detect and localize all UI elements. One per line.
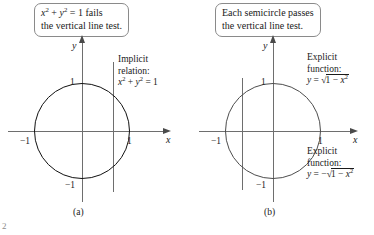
annotation-explicit-lower: Explicit function: y = −√1 − x2 — [307, 146, 354, 181]
y-axis-label-a: y — [72, 41, 76, 51]
tick-label-a-x-left: −1 — [20, 136, 30, 146]
annotation-explicit-upper: Explicit function: y = √1 − x2 — [307, 52, 349, 87]
y-axis-label-b: y — [263, 41, 267, 51]
x-axis-arrow-b — [350, 128, 358, 134]
page-corner-mark: 2 — [2, 221, 7, 231]
caption-b: (b) — [264, 207, 275, 217]
annot-a-line3: x2 + y2 = 1 — [118, 77, 158, 89]
x-axis-label-a: x — [166, 135, 170, 145]
callout-a-line1: x2 + y2 = 1 fails — [41, 7, 122, 20]
panel-b: Each semicircle passes the vertical line… — [187, 0, 374, 235]
x-axis-arrow-a — [163, 128, 171, 134]
unit-circle-a — [34, 83, 130, 179]
callout-b-line1: Each semicircle passes — [222, 7, 314, 20]
tick-label-a-y-bottom: −1 — [65, 180, 75, 190]
panel-a: x2 + y2 = 1 fails the vertical line test… — [0, 0, 187, 235]
y-axis-arrow-b — [270, 35, 276, 43]
vertical-line-test-figure: x2 + y2 = 1 fails the vertical line test… — [0, 0, 374, 235]
callout-b-line2: the vertical line test. — [222, 20, 314, 33]
callout-box-b: Each semicircle passes the vertical line… — [215, 3, 321, 37]
annot-b-upper-line1: Explicit — [307, 52, 349, 64]
annot-a-line1: Implicit — [118, 54, 158, 66]
tick-label-b-x-left: −1 — [211, 136, 221, 146]
annot-b-lower-line1: Explicit — [307, 146, 354, 158]
tick-label-a-x-right: 1 — [127, 136, 132, 146]
annot-b-upper-line3: y = √1 − x2 — [307, 75, 349, 87]
callout-box-a: x2 + y2 = 1 fails the vertical line test… — [34, 3, 129, 37]
callout-a-line2: the vertical line test. — [41, 20, 122, 33]
tick-label-b-y-bottom: −1 — [256, 180, 266, 190]
tick-label-a-y-top: 1 — [70, 77, 75, 87]
x-axis-label-b: x — [353, 135, 357, 145]
caption-a: (a) — [73, 207, 84, 217]
tick-label-b-x-right: 1 — [318, 136, 323, 146]
annotation-implicit-relation: Implicit relation: x2 + y2 = 1 — [118, 54, 158, 89]
annot-b-lower-line3: y = −√1 − x2 — [307, 169, 354, 181]
tick-label-b-y-top: 1 — [261, 77, 266, 87]
y-axis-arrow-a — [79, 35, 85, 43]
